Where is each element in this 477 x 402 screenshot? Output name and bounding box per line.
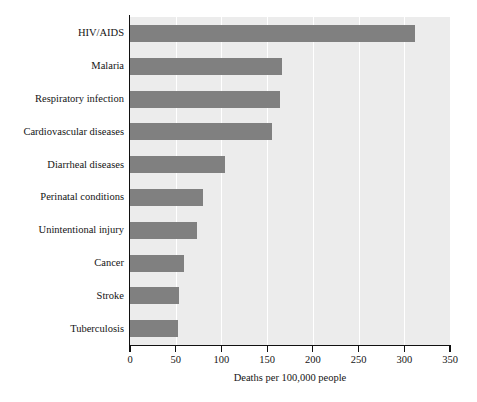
y-axis-label: Respiratory infection (0, 93, 124, 105)
gridline (359, 17, 360, 345)
x-axis-tick (267, 346, 268, 352)
x-axis-tick (449, 346, 450, 352)
bar (130, 91, 280, 108)
x-axis-tick-label: 300 (384, 353, 424, 366)
bar (130, 25, 415, 42)
x-axis-tick-label: 200 (293, 353, 333, 366)
y-axis-label: Stroke (0, 290, 124, 302)
y-axis-label: Diarrheal diseases (0, 159, 124, 171)
y-axis-label: Unintentional injury (0, 224, 124, 236)
x-axis-tick (358, 346, 359, 352)
bar (130, 58, 282, 75)
x-axis-tick (221, 346, 222, 352)
y-axis-label: Cardiovascular diseases (0, 126, 124, 138)
bar (130, 123, 272, 140)
bar (130, 255, 184, 272)
y-axis-line (129, 15, 130, 347)
bar (130, 189, 203, 206)
bar (130, 287, 179, 304)
y-axis-label: Cancer (0, 257, 124, 269)
x-axis-tick (129, 346, 130, 352)
x-axis-tick-label: 0 (110, 353, 150, 366)
y-axis-label: HIV/AIDS (0, 27, 124, 39)
plot-area (130, 17, 450, 345)
x-axis-tick (404, 346, 405, 352)
x-axis-tick-label: 100 (201, 353, 241, 366)
x-axis-tick (312, 346, 313, 352)
bar (130, 156, 225, 173)
x-axis-title: Deaths per 100,000 people (130, 372, 450, 383)
y-axis-category-labels: HIV/AIDSMalariaRespiratory infectionCard… (0, 0, 124, 402)
gridline (313, 17, 314, 345)
y-axis-label: Tuberculosis (0, 323, 124, 335)
bar (130, 222, 197, 239)
y-axis-label: Perinatal conditions (0, 191, 124, 203)
bar (130, 320, 178, 337)
x-axis-tick-label: 350 (430, 353, 470, 366)
gridline (404, 17, 405, 345)
x-axis-tick-label: 150 (247, 353, 287, 366)
y-axis-label: Malaria (0, 60, 124, 72)
x-axis-tick-label: 250 (339, 353, 379, 366)
x-axis-tick (175, 346, 176, 352)
x-axis-tick-label: 50 (156, 353, 196, 366)
bar-chart: HIV/AIDSMalariaRespiratory infectionCard… (0, 0, 477, 402)
